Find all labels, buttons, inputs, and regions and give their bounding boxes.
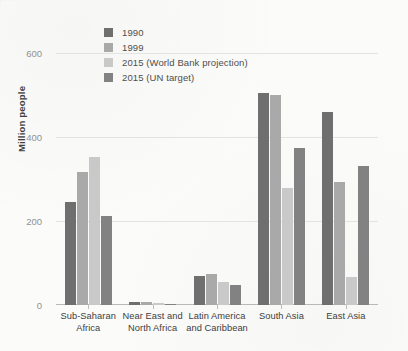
- bar[interactable]: [358, 166, 369, 305]
- bar-group: [120, 53, 184, 305]
- legend-item[interactable]: 1990: [104, 26, 248, 39]
- bar[interactable]: [141, 302, 152, 305]
- bar[interactable]: [334, 182, 345, 305]
- x-axis-category-label-line: Near East and: [120, 311, 184, 323]
- bar[interactable]: [230, 285, 241, 305]
- bar[interactable]: [294, 148, 305, 305]
- bar[interactable]: [322, 112, 333, 305]
- bar-group: [56, 53, 120, 305]
- bar-group: [314, 53, 378, 305]
- x-axis-category-label-line: North Africa: [120, 323, 184, 335]
- plot-area: [56, 53, 378, 305]
- bar[interactable]: [258, 93, 269, 305]
- bar[interactable]: [282, 188, 293, 305]
- x-axis-category-label-line: and Caribbean: [185, 323, 249, 335]
- x-axis-tickmark: [346, 305, 347, 309]
- bar-group: [249, 53, 313, 305]
- x-axis-category-label-line: Latin America: [185, 311, 249, 323]
- bar[interactable]: [346, 277, 357, 305]
- bar-groups: [56, 53, 378, 305]
- y-axis-tick-label: 0: [37, 300, 42, 311]
- x-axis-category-labels: Sub-SaharanAfricaNear East andNorth Afri…: [56, 311, 378, 334]
- x-axis-category-label-line: East Asia: [314, 311, 378, 323]
- bar[interactable]: [129, 302, 140, 305]
- bar[interactable]: [218, 282, 229, 305]
- x-axis-tickmark: [217, 305, 218, 309]
- bar[interactable]: [65, 202, 76, 305]
- bar[interactable]: [270, 95, 281, 305]
- bar[interactable]: [77, 172, 88, 305]
- x-axis-category-label-line: Africa: [56, 323, 120, 335]
- bar[interactable]: [206, 274, 217, 305]
- bar[interactable]: [194, 276, 205, 305]
- x-axis-category-label: East Asia: [314, 311, 378, 334]
- x-axis-category-label: South Asia: [249, 311, 313, 334]
- x-axis-tickmark: [153, 305, 154, 309]
- legend-swatch-icon: [104, 28, 113, 37]
- y-axis-tick-label: 200: [26, 216, 42, 227]
- x-axis-category-label: Near East andNorth Africa: [120, 311, 184, 334]
- x-axis-category-label: Latin Americaand Caribbean: [185, 311, 249, 334]
- x-axis-category-label: Sub-SaharanAfrica: [56, 311, 120, 334]
- y-axis-tick-label: 400: [26, 132, 42, 143]
- legend-label: 1990: [122, 27, 144, 38]
- x-axis-tickmark: [281, 305, 282, 309]
- y-axis-tick-label: 600: [26, 48, 42, 59]
- bar-chart: 199019992015 (World Bank projection)2015…: [0, 0, 408, 351]
- bar-group: [185, 53, 249, 305]
- x-axis-category-label-line: South Asia: [249, 311, 313, 323]
- bar[interactable]: [101, 216, 112, 305]
- x-axis-tickmark: [88, 305, 89, 309]
- legend-swatch-icon: [104, 43, 113, 52]
- bar[interactable]: [165, 304, 176, 305]
- bar[interactable]: [153, 303, 164, 305]
- y-axis-tick-labels: 0200400600: [0, 53, 50, 305]
- bar[interactable]: [89, 157, 100, 305]
- legend-label: 1999: [122, 42, 144, 53]
- x-axis-category-label-line: Sub-Saharan: [56, 311, 120, 323]
